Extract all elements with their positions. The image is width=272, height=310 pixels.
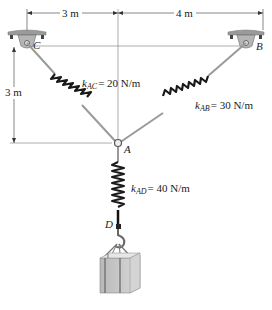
support-b: B	[228, 30, 264, 52]
crate	[100, 253, 140, 293]
ring-a: A	[115, 140, 132, 156]
point-label-d: D	[104, 218, 113, 230]
hook-d: D	[104, 218, 124, 248]
spring-ab-label: kAB= 30 N/m	[195, 99, 253, 113]
spring-system-diagram: 3 m 4 m 3 m C B kAC= 20 N/m	[0, 0, 272, 310]
spring-ab	[119, 43, 246, 143]
spring-ac-label: kAC= 20 N/m	[82, 77, 141, 91]
spring-ac	[27, 43, 117, 143]
dimension-label-3m-vertical: 3 m	[5, 86, 22, 98]
point-label-c: C	[33, 39, 41, 51]
spring-ad-label: kAD= 40 N/m	[131, 182, 190, 196]
dimension-label-4m-horizontal: 4 m	[176, 7, 193, 19]
spring-ad	[112, 147, 124, 226]
vertical-dimension: 3 m	[4, 47, 112, 143]
dimension-label-3m-horizontal: 3 m	[62, 7, 79, 19]
point-label-a: A	[123, 143, 131, 155]
point-label-b: B	[256, 40, 263, 52]
